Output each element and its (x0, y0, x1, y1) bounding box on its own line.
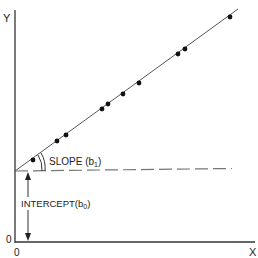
data-point (176, 52, 181, 57)
intercept-label: INTERCEPT(b0) (21, 198, 90, 210)
data-points (31, 15, 233, 163)
data-point (228, 15, 233, 20)
data-point (55, 139, 60, 144)
arrow-up-icon (25, 172, 31, 180)
x-axis-label: X (249, 246, 257, 258)
arrow-down-icon (25, 233, 31, 241)
data-point (137, 81, 142, 86)
slope-label: SLOPE (b1) (49, 156, 101, 168)
regression-diagram: Y X 0 0 SLOPE (b1) INTERCEPT(b0) (0, 0, 258, 258)
data-point (106, 102, 111, 107)
y-origin-label: 0 (6, 234, 12, 245)
data-point (183, 47, 188, 52)
slope-angle-arc-icon (38, 155, 42, 171)
x-origin-label: 0 (14, 247, 20, 258)
regression-line (15, 9, 238, 171)
y-axis-label: Y (3, 12, 11, 24)
data-point (100, 107, 105, 112)
data-point (121, 92, 126, 97)
data-point (64, 133, 69, 138)
intercept-baseline (15, 169, 232, 172)
data-point (31, 158, 36, 163)
